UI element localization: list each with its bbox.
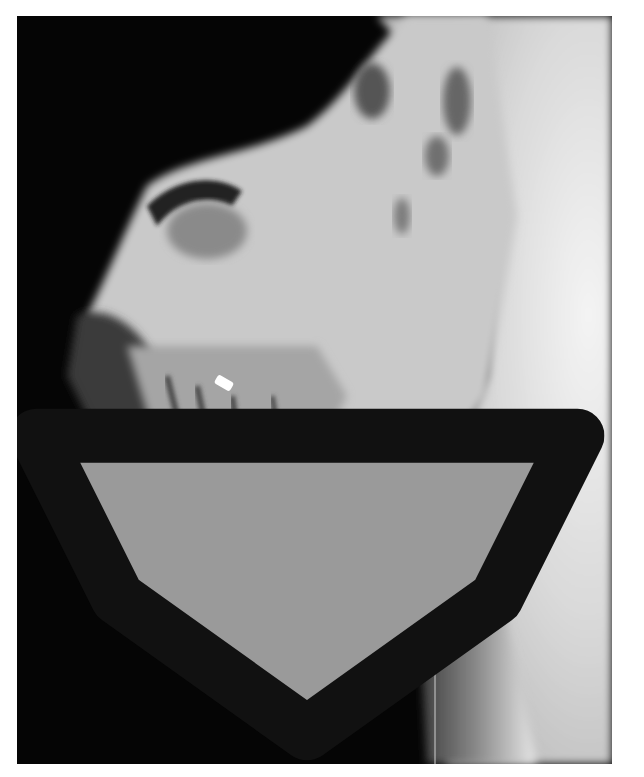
radiograph-image: 1 2 3 4 5 6 [17,16,612,764]
open-arrow-down-icon [17,197,605,764]
